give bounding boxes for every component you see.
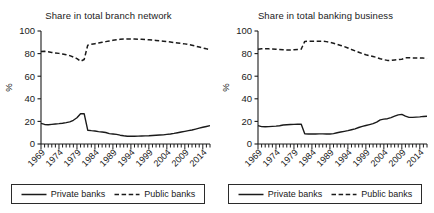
legend-swatch-solid-line <box>238 191 264 198</box>
x-tick-label: 1989 <box>315 147 336 168</box>
y-axis-title: % <box>220 83 231 92</box>
y-tick-label: 100 <box>19 25 35 36</box>
y-tick-label: 80 <box>241 48 252 59</box>
x-tick-label: 1969 <box>243 147 264 168</box>
x-tick-label: 2014 <box>187 147 208 168</box>
legend-swatch-solid-line <box>21 191 47 198</box>
x-tick-label: 2004 <box>152 147 173 168</box>
x-tick-label: 1974 <box>44 147 65 168</box>
y-tick-label: 100 <box>236 25 252 36</box>
legend-label-private-banks: Private banks <box>268 189 323 199</box>
x-tick-label: 1969 <box>26 147 47 168</box>
x-tick-label: 1979 <box>62 147 83 168</box>
y-axis-ticks: 020406080100 <box>19 25 41 149</box>
y-tick-label: 20 <box>241 116 252 127</box>
x-tick-label: 1974 <box>261 147 282 168</box>
legend-entry-private-banks[interactable]: Private banks <box>21 189 106 199</box>
y-tick-label: 0 <box>247 138 252 149</box>
legend-label-public-banks: Public banks <box>361 189 412 199</box>
y-tick-label: 80 <box>24 48 35 59</box>
y-tick-label: 60 <box>241 71 252 82</box>
x-tick-label: 2009 <box>170 147 191 168</box>
x-tick-label: 1989 <box>98 147 119 168</box>
figure-root: Share in total branch network02040608010… <box>0 0 434 213</box>
legend-entry-public-banks[interactable]: Public banks <box>331 189 412 199</box>
series-line-private-banks <box>258 114 427 134</box>
x-tick-label: 2009 <box>387 147 408 168</box>
chart-panel-banking_business: Share in total banking business020406080… <box>217 0 434 213</box>
legend-label-private-banks: Private banks <box>51 189 106 199</box>
y-tick-label: 40 <box>241 93 252 104</box>
y-tick-label: 40 <box>24 93 35 104</box>
legend-swatch-dashed-line <box>114 191 140 198</box>
legend-swatch-dashed-line <box>331 191 357 198</box>
legend-entry-private-banks[interactable]: Private banks <box>238 189 323 199</box>
x-tick-label: 1984 <box>80 147 101 168</box>
x-tick-label: 2004 <box>369 147 390 168</box>
plot-area: 020406080100%196919741979198419891994199… <box>0 0 217 213</box>
y-tick-label: 60 <box>24 71 35 82</box>
x-tick-label: 1984 <box>297 147 318 168</box>
x-tick-label: 1999 <box>351 147 372 168</box>
plot-area: 020406080100%196919741979198419891994199… <box>217 0 434 213</box>
x-tick-label: 1979 <box>279 147 300 168</box>
x-tick-label: 1999 <box>134 147 155 168</box>
series-line-private-banks <box>41 114 210 137</box>
chart-legend: Private banksPublic banks <box>228 184 422 204</box>
y-axis-title: % <box>3 83 14 92</box>
y-tick-label: 20 <box>24 116 35 127</box>
x-axis-tick-labels: 1969197419791984198919941999200420092014 <box>26 147 209 168</box>
chart-panel-branch_network: Share in total branch network02040608010… <box>0 0 217 213</box>
x-tick-label: 1994 <box>116 147 137 168</box>
x-tick-label: 1994 <box>333 147 354 168</box>
chart-legend: Private banksPublic banks <box>11 184 205 204</box>
series-line-public-banks <box>258 41 427 60</box>
x-axis-tick-labels: 1969197419791984198919941999200420092014 <box>243 147 426 168</box>
y-tick-label: 0 <box>30 138 35 149</box>
series-line-public-banks <box>41 39 210 61</box>
x-tick-label: 2014 <box>404 147 425 168</box>
legend-label-public-banks: Public banks <box>144 189 195 199</box>
y-axis-ticks: 020406080100 <box>236 25 258 149</box>
legend-entry-public-banks[interactable]: Public banks <box>114 189 195 199</box>
